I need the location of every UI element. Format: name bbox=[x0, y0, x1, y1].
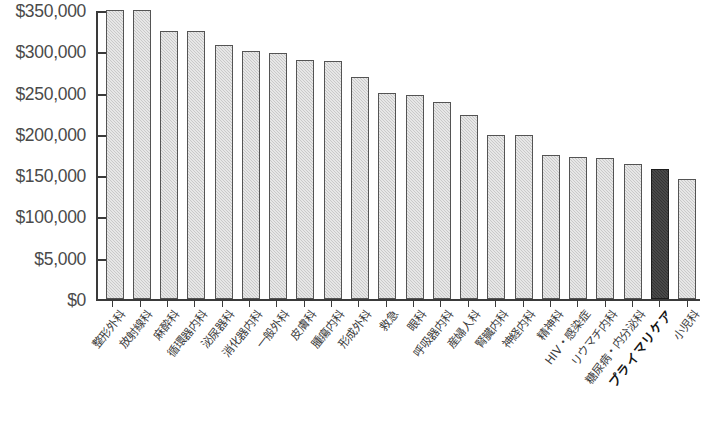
bar bbox=[242, 51, 260, 299]
bar bbox=[433, 102, 451, 299]
bar bbox=[106, 10, 124, 299]
bar-slot bbox=[401, 10, 428, 299]
bar bbox=[596, 158, 614, 299]
bar bbox=[133, 10, 151, 299]
bar bbox=[406, 95, 424, 299]
bar bbox=[296, 60, 314, 299]
y-tick-label: $200,000 bbox=[15, 124, 86, 145]
x-axis-labels: 整形外科放射線科麻酔科循環器内科泌尿器科消化器内科一般外科皮膚科腫瘍内科形成外科… bbox=[98, 306, 702, 426]
x-axis-label: 小児科 bbox=[672, 308, 702, 342]
bar bbox=[678, 179, 696, 299]
bar-chart: $350,000$300,000$250,000$200,000$150,000… bbox=[0, 0, 704, 433]
bar bbox=[324, 61, 342, 299]
bar bbox=[624, 164, 642, 299]
bar-slot bbox=[128, 10, 155, 299]
bar-slot bbox=[483, 10, 510, 299]
bar-slot bbox=[592, 10, 619, 299]
bar bbox=[569, 157, 587, 299]
bar bbox=[542, 155, 560, 299]
bar-slot bbox=[265, 10, 292, 299]
bar bbox=[215, 45, 233, 299]
bar bbox=[460, 115, 478, 299]
bar bbox=[515, 135, 533, 299]
bar-slot bbox=[619, 10, 646, 299]
y-tick-label: $5,000 bbox=[34, 248, 86, 269]
plot-area bbox=[96, 11, 700, 301]
y-axis: $350,000$300,000$250,000$200,000$150,000… bbox=[0, 0, 92, 310]
x-axis-label: 眼科 bbox=[405, 308, 428, 333]
bar-slot bbox=[156, 10, 183, 299]
y-tick-label: $0 bbox=[67, 290, 86, 311]
bar-slot bbox=[183, 10, 210, 299]
bar-slot bbox=[237, 10, 264, 299]
y-tick-label: $350,000 bbox=[15, 1, 86, 22]
bar-slot bbox=[374, 10, 401, 299]
bar bbox=[269, 53, 287, 299]
bar-slot bbox=[292, 10, 319, 299]
y-tick-label: $150,000 bbox=[15, 166, 86, 187]
bar-slot bbox=[674, 10, 701, 299]
bar-slot bbox=[455, 10, 482, 299]
bar-slot bbox=[646, 10, 673, 299]
bar bbox=[160, 31, 178, 299]
bar-slot bbox=[210, 10, 237, 299]
bar-slot bbox=[565, 10, 592, 299]
y-tick-label: $100,000 bbox=[15, 207, 86, 228]
bar bbox=[378, 93, 396, 299]
y-tick-label: $250,000 bbox=[15, 83, 86, 104]
bar bbox=[487, 135, 505, 299]
bar-slot bbox=[101, 10, 128, 299]
bar-series bbox=[100, 10, 702, 299]
bar-slot bbox=[510, 10, 537, 299]
bar bbox=[651, 169, 669, 299]
y-tick-label: $300,000 bbox=[15, 42, 86, 63]
bar bbox=[187, 31, 205, 299]
bar bbox=[351, 77, 369, 299]
bar-slot bbox=[319, 10, 346, 299]
bar-slot bbox=[428, 10, 455, 299]
x-axis-label: 救急 bbox=[378, 308, 401, 333]
bar-slot bbox=[537, 10, 564, 299]
bar-slot bbox=[346, 10, 373, 299]
